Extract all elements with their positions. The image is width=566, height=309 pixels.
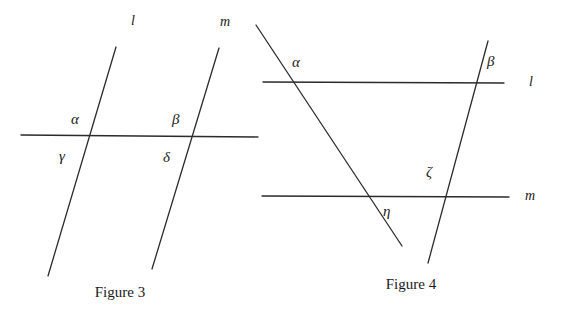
geometry-canvas <box>0 0 566 309</box>
figure-4-caption: Figure 4 <box>366 277 456 292</box>
figure-3-angle-gamma: γ <box>59 149 65 164</box>
figure-page: lmαβγδFigure 3lmαβζηFigure 4 <box>0 0 566 309</box>
figure-4-transversal-left <box>256 25 402 246</box>
figure-3-angle-delta: δ <box>163 150 170 165</box>
figure-3-angle-beta: β <box>172 112 179 127</box>
figure-4-angle-zeta: ζ <box>426 165 432 180</box>
figure-4-angle-alpha: α <box>292 55 300 70</box>
figure-3-angle-alpha: α <box>71 112 79 127</box>
figure-3-line-l-label: l <box>131 14 135 28</box>
figure-3-line-m-label: m <box>220 15 230 29</box>
figure-3-caption: Figure 3 <box>75 285 165 300</box>
line-group <box>21 25 509 276</box>
figure-4-line-m-label: m <box>525 189 535 203</box>
figure-4-line-l-label: l <box>529 75 533 89</box>
figure-4-angle-eta: η <box>383 204 390 219</box>
figure-4-line-m <box>262 196 509 197</box>
figure-4-angle-beta: β <box>487 54 494 69</box>
figure-4-line-l <box>263 82 504 83</box>
figure-4-transversal-right <box>428 41 488 263</box>
figure-3-transversal <box>21 135 258 137</box>
